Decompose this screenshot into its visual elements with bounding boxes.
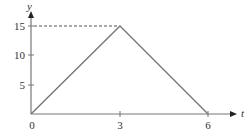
y-axis-arrow-icon	[28, 11, 34, 18]
x-tick-label: 6	[205, 119, 211, 131]
y-tick-label: 5	[20, 79, 26, 91]
x-axis-arrow-icon	[230, 111, 237, 117]
x-tick-label: 3	[117, 119, 123, 131]
data-series-line	[31, 26, 208, 114]
x-tick-label: 0	[29, 119, 35, 131]
y-axis-label: y	[26, 0, 32, 12]
line-chart: y t 5 10 15 0 3 6	[0, 0, 252, 136]
y-tick-label: 15	[14, 20, 26, 32]
x-axis-label: t	[241, 107, 245, 119]
y-tick-label: 10	[14, 49, 26, 61]
